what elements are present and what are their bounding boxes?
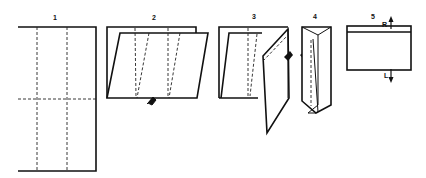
fold-line-slanted (250, 34, 257, 96)
step-1-label: 1 (53, 14, 57, 21)
front-sheet-parallelogram (107, 33, 208, 98)
arrow-up-icon (389, 16, 394, 29)
tube-outline (302, 27, 331, 113)
arrow-down-icon (389, 69, 394, 83)
arrow-label-l: L (384, 72, 389, 79)
inner-panel (221, 33, 262, 98)
step-5: 5 R L (347, 13, 411, 83)
step-3: 3 (219, 13, 293, 133)
step-4: 4 (300, 13, 331, 113)
step-4-label: 4 (313, 13, 317, 20)
step-2: 2 (107, 14, 208, 105)
step-2-label: 2 (152, 14, 156, 21)
arrow-label-r: R (382, 21, 387, 28)
step-5-label: 5 (371, 13, 375, 20)
folding-flap (263, 29, 289, 133)
step-1: 1 (18, 14, 96, 171)
folding-diagram: 1 2 3 4 (0, 0, 426, 178)
step-3-label: 3 (252, 13, 256, 20)
